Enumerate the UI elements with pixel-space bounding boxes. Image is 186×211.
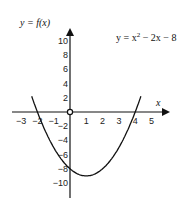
origin-marker — [67, 109, 72, 114]
function-graph: −3−2−112345 108642−2−4−6−8−10 y = f(x) x… — [0, 0, 186, 211]
x-tick-label: 2 — [100, 116, 105, 126]
x-tick-label: 5 — [149, 116, 154, 126]
x-axis-label: x — [155, 97, 161, 108]
y-tick-label: 6 — [63, 64, 68, 74]
y-tick-label: −6 — [58, 150, 68, 160]
y-tick-label: −10 — [53, 178, 68, 188]
y-axis-label: y = f(x) — [19, 17, 51, 29]
y-tick-label: 10 — [58, 36, 68, 46]
x-tick-label: −3 — [16, 116, 26, 126]
y-tick-label: 2 — [63, 93, 68, 103]
y-tick-label: −2 — [58, 121, 68, 131]
y-tick-label: 4 — [63, 79, 68, 89]
y-tick-label: 8 — [63, 50, 68, 60]
parabola-curve — [32, 96, 141, 176]
x-tick-label: 3 — [116, 116, 121, 126]
y-tick-label: −4 — [58, 135, 68, 145]
equation-label: y = x2 − 2x − 8 — [116, 31, 176, 43]
x-tick-label: 1 — [84, 116, 89, 126]
